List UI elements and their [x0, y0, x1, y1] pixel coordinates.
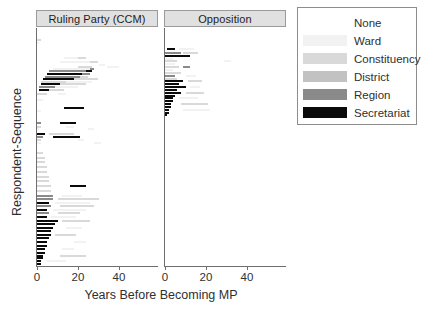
sequence-segment [37, 227, 53, 229]
sequence-segment [165, 100, 173, 102]
sequence-segment [183, 52, 197, 54]
sequence-segment [49, 133, 74, 135]
sequence-segment [37, 257, 43, 259]
sequence-segment [165, 89, 177, 91]
legend-swatch [303, 71, 347, 82]
sequence-segment [94, 142, 100, 144]
sequence-segment [165, 55, 190, 57]
legend-swatch [303, 17, 347, 28]
sequence-segment [49, 70, 86, 72]
sequence-segment [179, 97, 197, 99]
sequence-segment [37, 245, 47, 247]
sequence-segment [37, 185, 51, 187]
sequence-segment [43, 78, 74, 80]
sequence-segment [55, 234, 76, 236]
legend-label: Secretariat [354, 107, 410, 119]
sequence-segment [37, 223, 55, 225]
sequence-segment [37, 260, 41, 262]
facet-strip-label-left: Ruling Party (CCM) [48, 13, 145, 25]
x-tick-label: 0 [150, 271, 180, 283]
sequence-segment [70, 185, 86, 187]
x-tick [206, 266, 207, 270]
sequence-segment [37, 166, 47, 168]
sequence-segment [62, 195, 83, 197]
sequence-segment [62, 248, 74, 250]
x-axis-line-right [164, 266, 286, 267]
x-tick [78, 266, 79, 270]
sequence-segment [165, 69, 173, 71]
x-tick-label: 20 [191, 271, 221, 283]
x-tick-label: 40 [232, 271, 262, 283]
sequence-segment [165, 83, 179, 85]
sequence-segment [186, 92, 204, 94]
sequence-segment [78, 57, 86, 59]
sequence-segment [58, 93, 66, 95]
sequence-segment [167, 48, 175, 50]
legend-item[interactable]: Region [303, 87, 413, 102]
sequence-segment [60, 61, 91, 63]
legend-label: None [354, 17, 382, 29]
sequence-segment [47, 260, 65, 262]
sequence-segment [66, 227, 82, 229]
sequence-segment [49, 89, 63, 91]
sequence-segment [37, 198, 53, 200]
sequence-segment [190, 86, 200, 88]
plot-area-ruling-party [37, 28, 158, 266]
sequence-segment [88, 128, 94, 130]
sequence-segment [58, 212, 81, 214]
legend-label: Region [354, 89, 390, 101]
sequence-segment [99, 64, 105, 66]
sequence-segment [37, 142, 41, 144]
sequence-segment [74, 241, 86, 243]
legend-label: Constituency [354, 53, 420, 65]
facet-strip-ruling-party: Ruling Party (CCM) [36, 10, 158, 27]
legend-item[interactable]: None [303, 15, 413, 30]
legend-item[interactable]: District [303, 69, 413, 84]
x-tick [119, 266, 120, 270]
sequence-segment [37, 205, 51, 207]
sequence-segment [53, 209, 86, 211]
sequence-segment [55, 202, 90, 204]
sequence-segment [165, 58, 173, 60]
sequence-segment [37, 234, 51, 236]
facet-strip-opposition: Opposition [164, 10, 286, 27]
sequence-segment [37, 157, 45, 159]
sequence-segment [37, 42, 39, 44]
chart-figure: Respondent-Sequence Ruling Party (CCM) O… [0, 0, 424, 312]
sequence-segment [62, 220, 91, 222]
legend-item[interactable]: Secretariat [303, 105, 413, 120]
legend-item[interactable]: Constituency [303, 51, 413, 66]
y-axis-title: Respondent-Sequence [10, 42, 24, 262]
sequence-segment [37, 195, 53, 197]
sequence-segment [39, 89, 49, 91]
x-tick [247, 266, 248, 270]
sequence-segment [37, 180, 49, 182]
sequence-segment [165, 109, 169, 111]
sequence-segment [37, 216, 47, 218]
legend: NoneWardConstituencyDistrictRegionSecret… [297, 7, 417, 125]
x-axis-line-left [36, 266, 158, 267]
legend-label: District [354, 71, 389, 83]
sequence-segment [74, 78, 99, 80]
sequence-segment [165, 97, 173, 99]
sequence-segment [165, 106, 171, 108]
sequence-segment [41, 83, 59, 85]
x-tick [165, 266, 166, 270]
x-axis-title: Years Before Becoming MP [36, 288, 286, 302]
sequence-segment [64, 107, 85, 109]
facet-strip-label-right: Opposition [198, 13, 252, 25]
sequence-segment [37, 161, 45, 163]
sequence-segment [37, 255, 43, 257]
sequence-segment [37, 93, 47, 95]
legend-swatch [303, 53, 347, 64]
sequence-segment [165, 75, 175, 77]
sequence-segment [37, 139, 41, 141]
sequence-segment [66, 126, 74, 128]
sequence-segment [179, 48, 193, 50]
legend-item[interactable]: Ward [303, 33, 413, 48]
x-tick-label: 20 [63, 271, 93, 283]
sequence-segment [78, 139, 84, 141]
sequence-segment [165, 52, 181, 54]
sequence-segment [60, 122, 76, 124]
x-tick-label: 0 [22, 271, 52, 283]
